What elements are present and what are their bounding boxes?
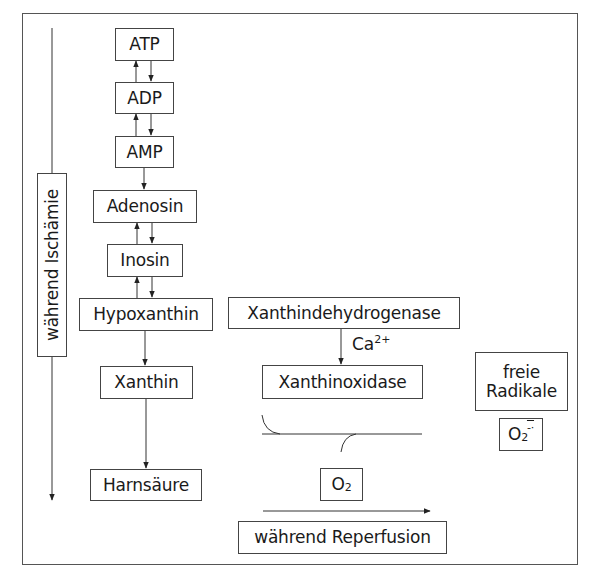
node-hypoxanthin-label: Hypoxanthin	[93, 305, 199, 324]
superoxide-box: O2-·	[499, 418, 543, 451]
node-hypoxanthin: Hypoxanthin	[79, 298, 213, 331]
node-adp: ADP	[115, 82, 174, 114]
enzyme-xanthindehydrogenase: Xanthindehydrogenase	[228, 297, 460, 329]
node-harnsaeure-label: Harnsäure	[103, 476, 189, 495]
node-xanthin-label: Xanthin	[114, 373, 178, 392]
reaction-curve-out	[341, 434, 356, 452]
node-inosin-label: Inosin	[120, 251, 169, 270]
reperfusion-phase-label: während Reperfusion	[238, 521, 447, 554]
node-adp-label: ADP	[127, 89, 161, 108]
enzyme-xanthindehydrogenase-label: Xanthindehydrogenase	[247, 304, 440, 323]
node-inosin: Inosin	[107, 244, 183, 277]
ischemia-phase-label: während Ischämie	[37, 173, 67, 357]
oxygen-subscript: 2	[345, 482, 352, 494]
reperfusion-phase-text: während Reperfusion	[254, 528, 431, 547]
enzyme-xanthinoxidase: Xanthinoxidase	[262, 365, 423, 399]
cofactor-charge: 2+	[374, 333, 390, 346]
enzyme-xanthinoxidase-label: Xanthinoxidase	[278, 373, 406, 392]
cofactor-base: Ca	[352, 334, 374, 354]
node-atp: ATP	[115, 28, 174, 61]
node-adenosin-label: Adenosin	[107, 197, 184, 216]
node-amp-label: AMP	[127, 143, 163, 162]
node-xanthin: Xanthin	[100, 366, 193, 399]
ischemia-phase-text: während Ischämie	[42, 189, 62, 341]
node-amp: AMP	[115, 136, 174, 168]
node-adenosin: Adenosin	[93, 190, 197, 223]
superoxide-radical-charge: -·	[527, 422, 534, 434]
free-radicals-line2: Radikale	[486, 382, 557, 401]
node-oxygen: O2	[320, 468, 363, 501]
node-harnsaeure: Harnsäure	[90, 469, 202, 501]
node-atp-label: ATP	[129, 35, 159, 54]
connector-layer	[0, 0, 593, 581]
free-radicals-line1: freie	[503, 363, 540, 382]
free-radicals-box: freie Radikale	[475, 352, 568, 411]
oxygen-base: O	[332, 475, 345, 494]
reaction-curve-in	[262, 415, 280, 434]
superoxide-base: O	[508, 425, 521, 444]
cofactor-calcium: Ca2+	[352, 333, 391, 354]
